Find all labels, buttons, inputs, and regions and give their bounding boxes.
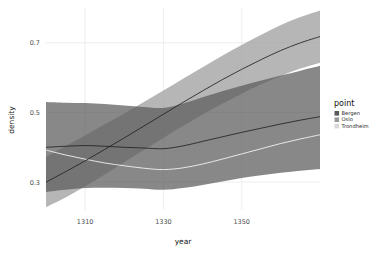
x-tick-label: 1350 — [233, 218, 250, 226]
legend-swatch-trondheim — [335, 124, 340, 129]
legend-swatch-bergen — [335, 111, 340, 116]
x-axis-tick-labels: 131013301350 — [77, 218, 250, 226]
x-axis-title: year — [175, 237, 193, 246]
y-axis-title: density — [7, 106, 16, 134]
y-tick-label: 0.3 — [30, 179, 40, 187]
y-axis-tick-labels: 0.30.50.7 — [30, 39, 40, 186]
legend-label-trondheim: Trondheim — [341, 123, 369, 129]
chart-container: 0.30.50.7 131013301350 year density poin… — [0, 0, 389, 257]
x-tick-label: 1310 — [77, 218, 94, 226]
legend-title: point — [334, 99, 354, 108]
x-tick-label: 1330 — [155, 218, 172, 226]
density-band-chart: 0.30.50.7 131013301350 year density poin… — [0, 0, 389, 257]
legend-items: BergenOsloTrondheim — [335, 110, 369, 129]
legend-swatch-oslo — [335, 117, 340, 122]
legend-label-oslo: Oslo — [342, 116, 353, 122]
legend: point BergenOsloTrondheim — [334, 99, 369, 129]
y-tick-label: 0.5 — [30, 109, 40, 117]
y-tick-label: 0.7 — [30, 39, 40, 47]
